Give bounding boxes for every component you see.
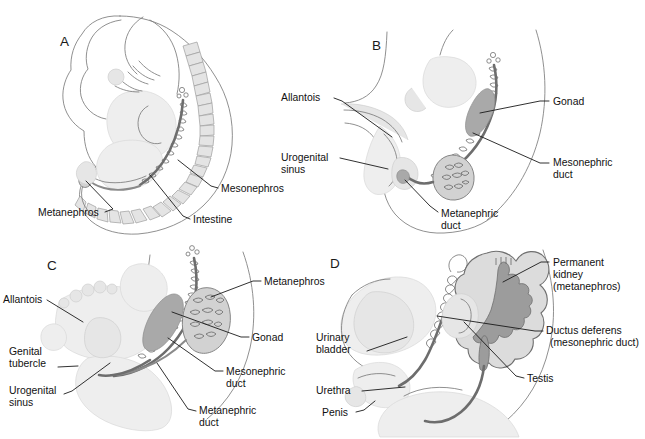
mesonephros-cranial-tuft-b [487,52,500,63]
urogenital-sinus-c [84,318,120,358]
label-ductus-deferens-d-l2: (mesonephric duct) [550,337,639,348]
vesicle-circle [108,69,124,85]
label-mesonephros-a: Mesonephros [221,183,284,194]
label-genital-tubercle-c-l2: tubercle [9,358,46,369]
body-wall-arc-b [487,30,545,220]
label-mesonephric-duct-c-l1: Mesonephric [226,366,286,377]
label-allantois-c: Allantois [3,294,42,305]
label-metanephric-duct-c-l2: duct [199,417,219,428]
midgut-stalk-b [440,30,453,55]
label-urogenital-sinus-b-l2: sinus [281,164,305,175]
label-metanephric-duct-c-l1: Metanephric [199,405,256,416]
label-testis-d: Testis [527,373,554,384]
panel-letter-b: B [372,38,381,53]
leader-genital-tubercle-c [58,366,78,367]
epididymis-upper-coil-d [449,255,467,272]
metanephric-bud-tip-b [397,170,410,184]
panel-c: C Allantois Genital tubercle Urogenital … [3,246,325,431]
panel-b: B Allantois Urogenital sinus Metanephric… [281,30,613,233]
leader-metanephric-duct-b [405,180,438,212]
label-ductus-deferens-d-l1: Ductus deferens [546,325,622,336]
label-mesonephric-duct-b-l1: Mesonephric [553,157,613,168]
mesonephros-upper-cluster [177,87,188,98]
lower-body-mass-c [76,356,172,431]
label-metanephric-duct-b-l2: duct [441,220,461,231]
label-permanent-kidney-d-l3: (metanephros) [553,281,621,292]
label-metanephros-a: Metanephros [38,207,99,218]
label-urogenital-sinus-c-l1: Urogenital [9,385,56,396]
allantois-tube-b [341,104,408,140]
label-gonad-c: Gonad [252,332,283,343]
gut-mass-b [423,57,476,108]
dorsal-neural-line [150,20,179,94]
label-permanent-kidney-d-l1: Permanent [553,257,604,268]
label-urinary-bladder-d-l2: bladder [316,344,351,355]
label-permanent-kidney-d-l2: kidney [553,269,584,280]
label-intestine-a: Intestine [193,214,233,225]
label-urogenital-sinus-b-l1: Urogenital [281,152,328,163]
panel-letter-d: D [330,256,340,271]
leader-mesonephric-duct-b [473,133,549,163]
label-gonad-b: Gonad [553,96,584,107]
panel-letter-a: A [60,34,69,49]
mesonephros-cranial-tuft-c [186,246,199,256]
panel-a: A Metanephros Intestine Mesonephros [38,16,284,234]
vesicle-stalk [123,82,142,91]
genital-tubercle-c [41,324,67,351]
label-urinary-bladder-d-l1: Urinary [316,332,350,343]
panel-letter-c: C [47,258,57,273]
urogenital-development-figure: A Metanephros Intestine Mesonephros [0,0,645,439]
label-allantois-b: Allantois [281,92,320,103]
label-mesonephric-duct-b-l2: duct [553,169,573,180]
label-metanephric-duct-b-l1: Metanephric [441,208,498,219]
metanephros-b [433,155,474,200]
label-urogenital-sinus-c-l2: sinus [9,397,33,408]
label-mesonephric-duct-c-l2: duct [226,378,246,389]
label-genital-tubercle-c-l1: Genital [9,346,42,357]
label-urethra-d: Urethra [316,385,351,396]
forebrain-contour [125,17,143,74]
gut-loop-b [405,88,426,112]
panel-d: D Urinary bladder Urethra Penis Permanen… [316,250,639,437]
label-penis-d: Penis [322,407,348,418]
label-metanephros-c: Metanephros [264,276,325,287]
leader-metanephros-c [211,281,261,297]
